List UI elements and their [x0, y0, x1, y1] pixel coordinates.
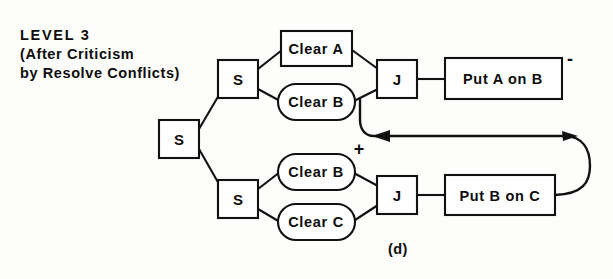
node-lower-split[interactable]: S	[218, 180, 258, 218]
root-split-label: S	[174, 131, 184, 148]
node-put-b-on-c[interactable]: Put B on C	[445, 175, 555, 215]
node-upper-split[interactable]: S	[218, 60, 258, 98]
upper-join-label: J	[393, 71, 401, 88]
edge-clear-a-to-upper-join	[352, 50, 378, 69]
node-upper-join[interactable]: J	[377, 60, 417, 98]
figure-caption: (d)	[388, 241, 408, 257]
clear-b-lower-label: Clear B	[288, 164, 344, 180]
figure-canvas: LEVEL 3 (After Criticism by Resolve Conf…	[0, 0, 613, 279]
node-clear-b-upper[interactable]: Clear B	[278, 84, 355, 120]
node-put-a-on-b[interactable]: Put A on B	[445, 58, 562, 99]
clear-c-label: Clear C	[288, 214, 344, 230]
edge-clear-c-to-lower-join	[352, 205, 378, 222]
feedback-arrowhead-left	[372, 130, 390, 142]
lower-split-label: S	[233, 191, 243, 208]
node-clear-a[interactable]: Clear A	[281, 31, 352, 66]
node-clear-c[interactable]: Clear C	[278, 204, 355, 240]
minus-sign-marker: -	[567, 49, 573, 69]
edge-root-to-lower-split	[199, 149, 219, 184]
edge-lower-split-to-clear-c	[258, 209, 280, 222]
lower-join-label: J	[393, 187, 401, 204]
node-lower-join[interactable]: J	[377, 176, 417, 214]
node-root-split[interactable]: S	[159, 120, 199, 158]
edge-root-to-upper-split	[199, 95, 219, 129]
put-a-on-b-label: Put A on B	[463, 71, 543, 87]
node-clear-b-lower[interactable]: Clear B	[278, 154, 355, 190]
upper-split-label: S	[233, 71, 243, 88]
clear-a-label: Clear A	[288, 41, 343, 57]
edge-lower-split-to-clear-b	[258, 172, 280, 189]
feedback-arrowhead-right	[562, 131, 578, 141]
edge-upper-split-to-clear-a	[258, 50, 282, 69]
clear-b-upper-label: Clear B	[288, 94, 344, 110]
plan-network-diagram: S S S Clear A Clear B Clear B	[0, 0, 613, 279]
put-b-on-c-label: Put B on C	[459, 188, 540, 204]
plus-sign-marker: +	[354, 139, 365, 159]
